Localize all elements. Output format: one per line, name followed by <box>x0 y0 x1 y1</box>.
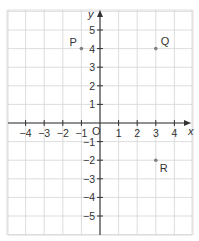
point-q-marker <box>154 47 158 51</box>
y-tick-label: 5 <box>89 24 95 36</box>
point-p-label: P <box>69 36 76 48</box>
x-tick-label: −4 <box>20 127 32 139</box>
x-tick-label: 3 <box>153 127 159 139</box>
y-tick-label: 3 <box>89 61 95 73</box>
point-q-label: Q <box>161 35 170 47</box>
point-r-marker <box>154 158 158 162</box>
coordinate-plane: xyO−4−3−2−1123454321−1−2−3−4−5PQR <box>0 0 199 241</box>
y-tick-label: −4 <box>83 191 95 203</box>
point-p-marker <box>80 47 84 51</box>
y-tick-label: 1 <box>89 98 95 110</box>
y-tick-label: −1 <box>83 136 95 148</box>
coordinate-grid-diagram: xyO−4−3−2−1123454321−1−2−3−4−5PQR <box>0 0 199 241</box>
x-tick-label: 4 <box>171 127 177 139</box>
x-tick-label: −2 <box>57 127 69 139</box>
y-tick-label: 2 <box>89 80 95 92</box>
x-tick-label: −3 <box>38 127 50 139</box>
x-tick-label: 2 <box>134 127 140 139</box>
y-tick-label: −3 <box>83 173 95 185</box>
point-r-label: R <box>160 162 168 174</box>
x-tick-label: 1 <box>116 127 122 139</box>
y-tick-label: −5 <box>83 210 95 222</box>
y-tick-label: 4 <box>89 43 95 55</box>
x-axis-label: x <box>187 125 194 137</box>
y-tick-label: −2 <box>83 154 95 166</box>
